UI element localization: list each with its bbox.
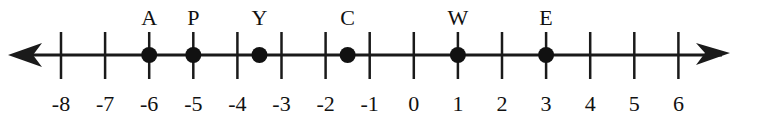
point-label: P bbox=[187, 5, 199, 30]
tick-label: 5 bbox=[629, 91, 640, 116]
tick-label: -2 bbox=[316, 91, 334, 116]
point-label: W bbox=[448, 5, 469, 30]
point-label: C bbox=[340, 5, 355, 30]
tick-group: -8-7-6-5-4-3-2-10123456 bbox=[52, 32, 684, 116]
tick-label: -8 bbox=[52, 91, 70, 116]
tick-label: 2 bbox=[497, 91, 508, 116]
point-label: A bbox=[141, 5, 157, 30]
point-e bbox=[538, 47, 554, 63]
tick-label: 3 bbox=[541, 91, 552, 116]
point-p bbox=[185, 47, 201, 63]
tick-label: 0 bbox=[408, 91, 419, 116]
tick-label: -5 bbox=[184, 91, 202, 116]
point-label: Y bbox=[252, 5, 268, 30]
tick-label: -1 bbox=[361, 91, 379, 116]
tick-label: 4 bbox=[585, 91, 596, 116]
number-line: -8-7-6-5-4-3-2-10123456 APYCWE bbox=[0, 0, 782, 140]
point-y bbox=[251, 47, 267, 63]
tick-label: -3 bbox=[272, 91, 290, 116]
point-c bbox=[340, 47, 356, 63]
point-label: E bbox=[539, 5, 552, 30]
point-a bbox=[141, 47, 157, 63]
tick-label: -6 bbox=[140, 91, 158, 116]
tick-label: 6 bbox=[673, 91, 684, 116]
point-w bbox=[450, 47, 466, 63]
tick-label: -4 bbox=[228, 91, 246, 116]
tick-label: -7 bbox=[96, 91, 114, 116]
tick-label: 1 bbox=[452, 91, 463, 116]
